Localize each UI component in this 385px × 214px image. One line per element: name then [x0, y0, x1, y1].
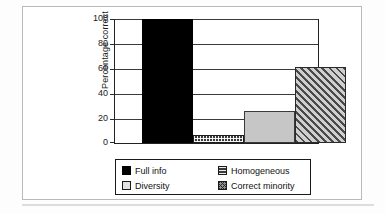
y-tick-label: 0 — [84, 138, 108, 147]
legend-label: Diversity — [135, 181, 170, 191]
y-axis-tick-labels: 100 80 60 40 20 0 — [82, 19, 108, 144]
legend-label: Correct minority — [231, 181, 295, 191]
legend-item-homogeneous: Homogeneous — [218, 166, 290, 176]
legend-label: Full info — [135, 166, 167, 176]
legend-row: Full info Homogeneous — [122, 163, 310, 178]
plot-area — [114, 19, 319, 144]
legend-item-correct-minority: Correct minority — [218, 181, 295, 191]
y-tick-label: 20 — [84, 114, 108, 123]
legend-swatch-icon — [122, 166, 131, 175]
scan-artifact — [22, 204, 374, 206]
y-tick-label: 60 — [84, 64, 108, 73]
legend-label: Homogeneous — [231, 166, 290, 176]
legend-item-diversity: Diversity — [122, 181, 218, 191]
legend-swatch-icon — [218, 181, 227, 190]
figure-frame: Percentage correct 100 80 60 40 20 0 — [22, 6, 362, 200]
bar-full-info — [142, 19, 193, 143]
chart-legend: Full info Homogeneous Diversity Correct … — [115, 159, 311, 195]
bar-homogeneous — [193, 135, 244, 143]
legend-swatch-icon — [122, 181, 131, 190]
bar-correct-minority — [295, 67, 346, 143]
y-tick-label: 40 — [84, 89, 108, 98]
y-tick-label: 80 — [84, 39, 108, 48]
legend-swatch-icon — [218, 166, 227, 175]
legend-row: Diversity Correct minority — [122, 178, 310, 193]
y-tick-label: 100 — [84, 14, 108, 23]
bar-diversity — [244, 111, 295, 143]
legend-item-full-info: Full info — [122, 166, 218, 176]
chart-canvas: Percentage correct 100 80 60 40 20 0 — [23, 7, 363, 201]
